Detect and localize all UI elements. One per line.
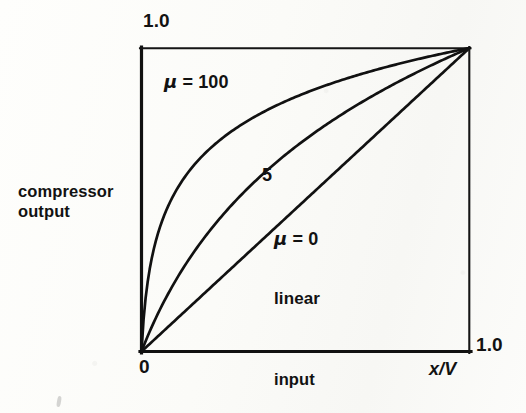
curve-label-linear: linear: [274, 289, 320, 308]
curve-label-mu-0-text: = 0: [287, 229, 318, 249]
x-axis-max-label: 1.0: [476, 334, 503, 355]
curve-label-mu-0: μ = 0: [274, 229, 318, 249]
y-axis-title: compressor output: [18, 181, 113, 221]
curve-label-mu-5: 5: [262, 165, 272, 185]
x-axis-variable-label: x/V: [429, 359, 456, 379]
figure-root: 1.0 1.0 0 compressor output input x/V μ …: [0, 0, 526, 413]
origin-label: 0: [139, 356, 150, 377]
x-axis-title: input: [274, 370, 315, 388]
mu-symbol-0: μ: [274, 228, 287, 249]
y-axis-title-line1: compressor output: [18, 182, 113, 220]
mu-symbol-100: μ: [164, 71, 177, 92]
y-axis-max-label: 1.0: [143, 10, 170, 31]
curve-label-mu-100: μ = 100: [164, 72, 229, 92]
curve-label-mu-100-text: = 100: [177, 72, 228, 92]
